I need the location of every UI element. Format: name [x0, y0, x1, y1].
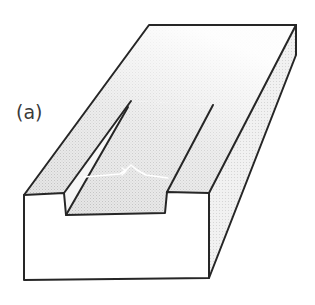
grooved-block-figure	[0, 0, 315, 305]
figure-label: (a)	[16, 101, 42, 123]
block-diagram	[0, 0, 315, 305]
